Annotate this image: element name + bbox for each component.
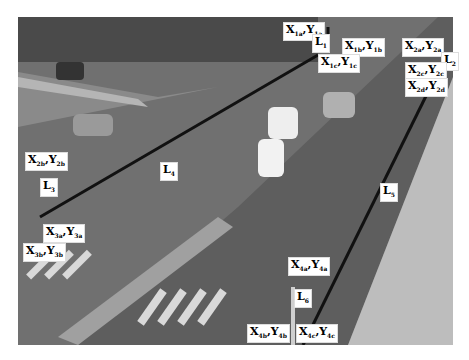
label-l6: L6 [294,289,312,308]
label-l4: L4 [160,162,178,181]
label-x2a: X2a,Y2a [402,38,444,57]
label-x4a: X4a,Y4a [288,257,330,276]
label-x4c: X4c,Y4c [296,324,338,343]
scene-graphic [18,17,453,345]
label-l5: L5 [380,183,398,202]
road-intersection-photo [18,17,453,345]
label-x4b: X4b,Y4b [247,324,290,343]
label-x3a: X3a,Y3a [43,224,85,243]
label-x2b: X2b,Y2b [25,152,68,171]
label-x3b: X3b,Y3b [23,243,66,262]
label-x2d: X2d,Y2d [405,78,448,97]
label-l1: L1 [312,34,330,53]
label-l3: L3 [40,178,58,197]
label-x1c: X1c,Y1c [318,54,360,73]
